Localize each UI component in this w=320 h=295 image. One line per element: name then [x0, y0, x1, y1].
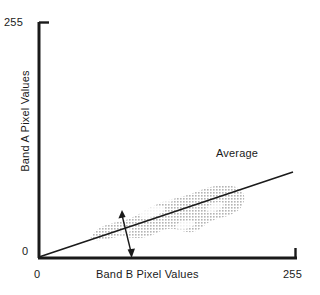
- x-axis-max-tick-label: 255: [283, 268, 302, 280]
- y-axis-max-tick-label: 255: [4, 16, 23, 28]
- x-axis-title: Band B Pixel Values: [96, 268, 199, 280]
- average-line-label: Average: [216, 147, 258, 159]
- y-axis: [39, 22, 49, 258]
- pixel-cloud-blob: [80, 180, 260, 250]
- average-line: [39, 172, 293, 257]
- x-axis-min-tick-label: 0: [34, 268, 40, 280]
- y-axis-min-tick-label: 0: [22, 245, 28, 257]
- y-axis-title: Band A Pixel Values: [19, 51, 31, 191]
- x-axis: [38, 248, 297, 258]
- plot-canvas: [0, 0, 320, 295]
- scatterplot-figure: 255 0 0 255 Band B Pixel Values Band A P…: [0, 0, 320, 295]
